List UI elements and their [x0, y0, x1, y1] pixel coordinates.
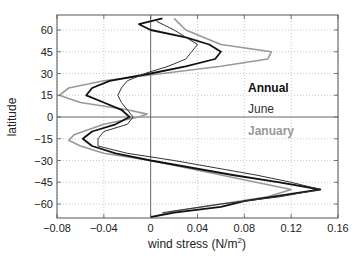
x-axis-label: wind stress (N/m2): [147, 236, 246, 251]
legend: Annual June January: [248, 81, 294, 138]
x-tick-label: −0.08: [43, 222, 71, 234]
legend-annual: Annual: [248, 81, 289, 95]
y-tick-label: 60: [41, 24, 53, 36]
x-tick-label: −0.04: [90, 222, 118, 234]
y-tick-label: −15: [34, 133, 53, 145]
x-tick-label: 0.04: [187, 222, 208, 234]
legend-june: June: [248, 102, 274, 116]
y-tick-label: 30: [41, 68, 53, 80]
y-tick-label: 45: [41, 46, 53, 58]
y-tick-label: −45: [34, 176, 53, 188]
x-tick-label: 0.08: [234, 222, 255, 234]
series-annual: [83, 18, 321, 217]
y-tick-label: 15: [41, 89, 53, 101]
x-axis-ticks: −0.08−0.0400.040.080.120.16: [43, 15, 349, 234]
x-tick-label: 0: [148, 222, 154, 234]
legend-january: January: [248, 124, 294, 138]
data-series: [59, 18, 320, 217]
x-tick-label: 0.16: [327, 222, 348, 234]
y-tick-label: 0: [47, 111, 53, 123]
series-january: [59, 18, 291, 217]
x-tick-label: 0.12: [280, 222, 301, 234]
y-tick-label: −60: [34, 198, 53, 210]
y-axis-label: latitude: [5, 97, 19, 136]
y-tick-label: −30: [34, 155, 53, 167]
wind-stress-chart: −0.08−0.0400.040.080.120.16 604530150−15…: [0, 0, 364, 261]
